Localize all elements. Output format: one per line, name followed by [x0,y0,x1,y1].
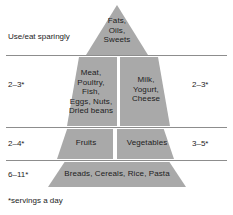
apex-usage-note: Use/eat sparingly [8,32,70,42]
tier2-left-food-label: Meat, Poultry, Fish, Eggs, Nuts, Dried b… [64,68,118,116]
base-servings-label: 6–11* [8,170,28,180]
tier3-right-food-label: Vegetables [120,138,174,148]
servings-footnote: *servings a day [8,196,63,206]
tier2-right-food-label: Milk, Yogurt, Cheese [122,75,170,104]
tier3-right-servings-label: 3–5* [192,139,208,149]
apex-food-label: Fats, Oils, Sweets [96,16,138,45]
tier2-right-servings-label: 2–3* [192,80,208,90]
tier3-left-food-label: Fruits [60,138,112,148]
tier2-left-servings-label: 2–3* [8,80,24,90]
base-food-label: Breads, Cereals, Rice, Pasta [52,169,182,179]
tier3-left-servings-label: 2–4* [8,139,24,149]
food-guide-pyramid-figure: Fats, Oils, Sweets Meat, Poultry, Fish, … [0,0,233,215]
